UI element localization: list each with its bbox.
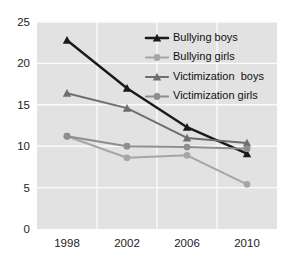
data-point-2006 bbox=[184, 152, 191, 159]
legend-swatch-marker bbox=[154, 54, 161, 61]
legend-swatch-marker bbox=[154, 93, 161, 100]
legend-label: Bullying girls bbox=[173, 50, 235, 62]
x-tick-label-2006: 2006 bbox=[174, 237, 200, 249]
y-axis-tick-labels: 0510152025 bbox=[17, 16, 30, 235]
data-point-2010 bbox=[244, 181, 251, 188]
data-point-1998 bbox=[64, 133, 71, 140]
y-tick-label-0: 0 bbox=[24, 223, 30, 235]
y-tick-label-25: 25 bbox=[17, 16, 30, 28]
data-point-2002 bbox=[124, 154, 131, 161]
data-point-2006 bbox=[184, 144, 191, 151]
x-axis-tick-labels: 1998200220062010 bbox=[54, 237, 260, 249]
x-tick-label-2002: 2002 bbox=[114, 237, 140, 249]
y-tick-label-20: 20 bbox=[17, 57, 30, 69]
x-tick-label-1998: 1998 bbox=[54, 237, 80, 249]
y-tick-label-15: 15 bbox=[17, 99, 30, 111]
y-tick-label-5: 5 bbox=[24, 182, 30, 194]
chart-canvas: 0510152025 1998200220062010 Bullying boy… bbox=[0, 0, 285, 255]
data-point-2010 bbox=[244, 145, 251, 152]
line-chart: 0510152025 1998200220062010 Bullying boy… bbox=[0, 0, 285, 255]
data-point-2002 bbox=[124, 143, 131, 150]
legend-label: Victimization boys bbox=[173, 70, 264, 82]
legend-label: Victimization girls bbox=[173, 89, 258, 101]
legend-label: Bullying boys bbox=[173, 31, 238, 43]
y-tick-label-10: 10 bbox=[17, 140, 30, 152]
x-tick-label-2010: 2010 bbox=[234, 237, 260, 249]
